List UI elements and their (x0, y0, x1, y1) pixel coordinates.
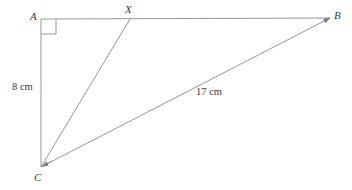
vertex-label-x: X (125, 4, 132, 15)
right-angle-marker-icon (41, 19, 56, 34)
vertex-label-a: A (30, 11, 37, 22)
geometry-svg (0, 0, 352, 190)
segment-CX (41, 19, 130, 167)
geometry-diagram: A X B C 8 cm 17 cm (0, 0, 352, 190)
side-length-label-ac: 8 cm (12, 82, 33, 93)
segment-CB (41, 18, 330, 167)
side-length-label-cb: 17 cm (196, 87, 222, 98)
arrow-to-C (42, 161, 52, 167)
segment-AB (41, 18, 330, 19)
vertex-label-b: B (334, 10, 341, 21)
vertex-label-c: C (34, 172, 41, 183)
